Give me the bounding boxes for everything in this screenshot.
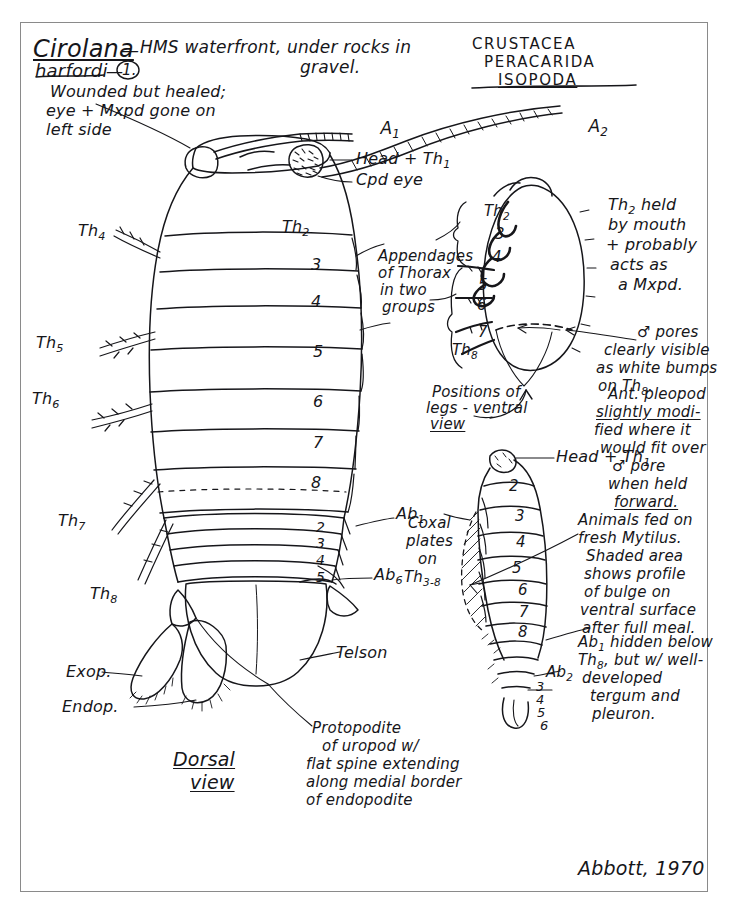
feeding-note-line-5: of bulge on bbox=[584, 584, 671, 601]
ab1-note-line-4: tergum and bbox=[590, 688, 680, 705]
feeding-note-line-2: fresh Mytilus. bbox=[578, 530, 682, 547]
dorsal-abdominal-4: 4 bbox=[316, 553, 325, 569]
header-dash: — bbox=[120, 40, 139, 61]
coxal-note-line-3: on bbox=[418, 551, 437, 568]
appendages-note-line-1: Appendages bbox=[378, 248, 473, 265]
ventral-segment-3: 3 bbox=[495, 226, 505, 243]
coxal-note-line-4: Th3-8 bbox=[404, 569, 441, 589]
maxilliped-note-line-2: by mouth bbox=[608, 216, 686, 234]
feeding-note-line-4: shows profile bbox=[584, 566, 686, 583]
abdomen-last-label: Ab6 bbox=[374, 566, 403, 588]
pore-note-line-2: clearly visible bbox=[604, 342, 710, 359]
ab1-note-line-3: developed bbox=[582, 670, 662, 687]
ventral-segment-5: 5 bbox=[478, 277, 488, 294]
condition-line-3: left side bbox=[46, 121, 112, 139]
appendages-note-line-2: of Thorax bbox=[378, 265, 451, 282]
lateral-segment-7: 7 bbox=[519, 604, 529, 621]
ventral-segment-th8: Th8 bbox=[452, 342, 478, 362]
lateral-segment-6: 6 bbox=[518, 582, 528, 599]
pore-note-line-1: ♂ pores bbox=[637, 324, 699, 341]
dorsal-segment-7: 7 bbox=[313, 434, 323, 452]
uropod-note-line-5: of endopodite bbox=[306, 792, 413, 809]
antenna-1-text: A1 bbox=[380, 118, 400, 138]
maxilliped-note-line-4: acts as bbox=[610, 256, 668, 274]
compound-eye-label: Cpd eye bbox=[356, 171, 423, 189]
uropod-note-line-2: of uropod w/ bbox=[322, 738, 419, 755]
antenna-2-text: A2 bbox=[588, 116, 608, 136]
ventral-caption-line-3: view bbox=[430, 416, 465, 433]
dorsal-segment-th2: Th2 bbox=[282, 218, 310, 240]
notebook-page: Cirolana — HMS waterfront, under rocks i… bbox=[0, 0, 730, 915]
pleopod-note-line-3: fied where it bbox=[594, 422, 691, 439]
exopodite-label: Exop. bbox=[66, 663, 112, 681]
lateral-segment-8: 8 bbox=[518, 624, 528, 641]
lateral-segment-4: 4 bbox=[516, 534, 526, 551]
pore-note-line-3: as white bumps bbox=[596, 360, 717, 377]
dorsal-abdominal-5: 5 bbox=[316, 570, 325, 586]
condition-line-2: eye + Mxpd gone on bbox=[46, 102, 216, 120]
specimen-number: 1. bbox=[122, 62, 137, 79]
ventral-segment-6: 6 bbox=[477, 297, 487, 314]
maxilliped-note-line-5: a Mxpd. bbox=[618, 276, 683, 294]
dorsal-abdominal-3: 3 bbox=[316, 536, 325, 552]
appendages-note-line-3: in two bbox=[380, 282, 427, 299]
dorsal-segment-6: 6 bbox=[313, 393, 323, 411]
lateral-abdominal-2-label: Ab2 bbox=[546, 664, 573, 684]
telson-label: Telson bbox=[336, 644, 388, 662]
lateral-segment-2: 2 bbox=[509, 478, 519, 495]
pleopod-note-line-6: when held bbox=[608, 476, 688, 493]
lateral-segment-3: 3 bbox=[515, 508, 525, 525]
genus-name: Cirolana bbox=[33, 36, 134, 63]
uropod-note-line-1: Protopodite bbox=[312, 720, 401, 737]
ventral-segment-4: 4 bbox=[492, 249, 502, 266]
left-label-th8: Th8 bbox=[90, 585, 118, 607]
ab1-note-line-5: pleuron. bbox=[592, 706, 656, 723]
left-label-th7: Th7 bbox=[58, 512, 86, 534]
dorsal-segment-4: 4 bbox=[311, 293, 321, 311]
dorsal-segment-3: 3 bbox=[311, 256, 321, 274]
maxilliped-note-line-3: + probably bbox=[606, 236, 697, 254]
feeding-note-line-3: Shaded area bbox=[586, 548, 683, 565]
pleopod-note-line-1: Ant. pleopod bbox=[608, 386, 706, 403]
locality-line-1: HMS waterfront, under rocks in bbox=[140, 38, 411, 57]
signature: Abbott, 1970 bbox=[578, 858, 704, 879]
dorsal-caption-line-2: view bbox=[190, 772, 235, 793]
feeding-note-line-6: ventral surface bbox=[580, 602, 696, 619]
uropod-note-line-4: along medial border bbox=[306, 774, 462, 791]
lateral-head-label: Head + Th1 bbox=[556, 448, 650, 470]
pleopod-note-line-2: slightly modi- bbox=[596, 404, 701, 421]
species-dash: — bbox=[106, 62, 123, 81]
lateral-segment-5: 5 bbox=[512, 560, 522, 577]
coxal-note-line-2: plates bbox=[406, 533, 453, 550]
dorsal-segment-8: 8 bbox=[311, 474, 321, 492]
ventral-segment-th2: Th2 bbox=[484, 203, 510, 223]
appendages-note-line-4: groups bbox=[382, 299, 435, 316]
endopodite-label: Endop. bbox=[62, 698, 119, 716]
locality-line-2: gravel. bbox=[300, 58, 360, 77]
feeding-note-line-1: Animals fed on bbox=[578, 512, 693, 529]
head-label: Head + Th1 bbox=[356, 150, 450, 172]
uropod-note-line-3: flat spine extending bbox=[306, 756, 460, 773]
lateral-abdominal-6: 6 bbox=[540, 719, 548, 734]
left-label-th4: Th4 bbox=[78, 222, 106, 244]
taxon-class: CRUSTACEA bbox=[472, 36, 576, 53]
species-name: harfordi bbox=[35, 61, 108, 81]
antenna-2-label: A2 bbox=[566, 98, 608, 159]
taxon-order: ISOPODA bbox=[498, 72, 577, 89]
left-label-th6: Th6 bbox=[32, 390, 60, 412]
dorsal-abdominal-2: 2 bbox=[316, 520, 325, 536]
dorsal-segment-5: 5 bbox=[313, 343, 323, 361]
condition-line-1: Wounded but healed; bbox=[50, 83, 226, 101]
ventral-segment-7: 7 bbox=[478, 324, 488, 341]
taxon-superorder: PERACARIDA bbox=[484, 54, 595, 71]
dorsal-caption-line-1: Dorsal bbox=[173, 749, 235, 770]
coxal-note-line-1: Coxal bbox=[408, 515, 451, 532]
left-label-th5: Th5 bbox=[36, 334, 64, 356]
pleopod-note-line-7: forward. bbox=[614, 494, 678, 511]
